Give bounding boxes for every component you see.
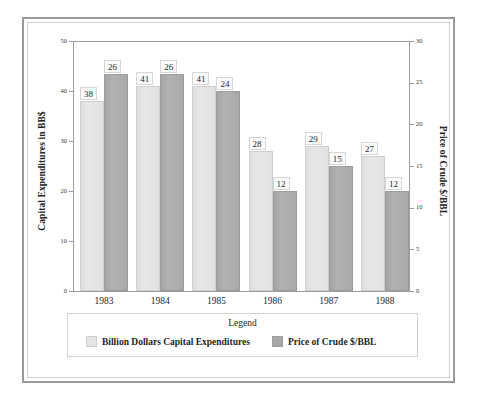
bar-value-label: 38 xyxy=(80,87,97,100)
bar-crude[interactable] xyxy=(273,191,297,291)
y-axis-right-tick xyxy=(410,124,414,125)
x-axis-label-1984: 1984 xyxy=(136,296,184,306)
bar-value-label: 24 xyxy=(216,77,233,90)
y-axis-right-tick xyxy=(410,166,414,167)
x-axis-label-1988: 1988 xyxy=(361,296,409,306)
bar-chart: Capital Expenditures in BB$ Price of Cru… xyxy=(0,0,477,410)
y-axis-right-tick-label: 10 xyxy=(416,204,444,211)
bar-value-label: 29 xyxy=(305,132,322,145)
bar-value-label: 41 xyxy=(136,72,153,85)
y-axis-right-tick-label: 5 xyxy=(416,246,444,253)
y-axis-right-tick-label: 25 xyxy=(416,79,444,86)
bar-value-label: 41 xyxy=(192,72,209,85)
light-gray-swatch xyxy=(86,336,97,347)
bar-capex[interactable] xyxy=(361,156,385,291)
chart-screenshot: Capital Expenditures in BB$ Price of Cru… xyxy=(0,0,477,410)
bar-value-label: 12 xyxy=(385,177,402,190)
x-axis-label-1983: 1983 xyxy=(80,296,128,306)
bar-value-label: 27 xyxy=(361,142,378,155)
bar-group: 4126 xyxy=(136,41,184,291)
y-axis-right-tick xyxy=(410,249,414,250)
y-axis-title-right: Price of Crude $/BBL xyxy=(438,96,448,246)
y-axis-right-tick xyxy=(410,291,414,292)
bar-crude[interactable] xyxy=(216,91,240,291)
bar-group: 2712 xyxy=(361,41,409,291)
x-axis-label-1986: 1986 xyxy=(249,296,297,306)
y-axis-left-tick-label: 0 xyxy=(39,288,67,295)
bar-value-label: 26 xyxy=(160,60,177,73)
bar-value-label: 28 xyxy=(249,137,266,150)
plot-area: 01020304050 051015202530 382641264124281… xyxy=(73,41,410,292)
x-axis-label-1985: 1985 xyxy=(192,296,240,306)
y-axis-right-tick-label: 20 xyxy=(416,121,444,128)
legend-title: Legend xyxy=(68,318,417,328)
y-axis-left-tick-label: 30 xyxy=(39,138,67,145)
bar-group: 4124 xyxy=(192,41,240,291)
bar-crude[interactable] xyxy=(160,74,184,291)
x-axis-label-1987: 1987 xyxy=(305,296,353,306)
y-axis-right-tick-label: 30 xyxy=(416,38,444,45)
y-axis-right-tick-label: 15 xyxy=(416,163,444,170)
legend: Legend Billion Dollars Capital Expenditu… xyxy=(67,313,418,357)
y-axis-title-left: Capital Expenditures in BB$ xyxy=(37,96,47,246)
bar-group: 3826 xyxy=(80,41,128,291)
y-axis-right-tick xyxy=(410,41,414,42)
bar-value-label: 26 xyxy=(104,60,121,73)
bar-capex[interactable] xyxy=(305,146,329,291)
bar-crude[interactable] xyxy=(329,166,353,291)
bar-crude[interactable] xyxy=(104,74,128,291)
dark-gray-swatch xyxy=(272,336,283,347)
legend-entry-label: Price of Crude $/BBL xyxy=(288,337,376,347)
y-axis-right-tick xyxy=(410,83,414,84)
y-axis-right-tick-label: 0 xyxy=(416,288,444,295)
bar-crude[interactable] xyxy=(385,191,409,291)
y-axis-right-tick xyxy=(410,208,414,209)
legend-entry[interactable]: Billion Dollars Capital Expenditures xyxy=(86,336,250,347)
legend-entry[interactable]: Price of Crude $/BBL xyxy=(272,336,376,347)
bar-capex[interactable] xyxy=(192,86,216,291)
y-axis-left-tick-label: 50 xyxy=(39,38,67,45)
bar-capex[interactable] xyxy=(80,101,104,291)
bar-group: 2812 xyxy=(249,41,297,291)
bar-value-label: 15 xyxy=(329,152,346,165)
legend-entries: Billion Dollars Capital ExpendituresPric… xyxy=(68,336,417,354)
y-axis-left-tick-label: 40 xyxy=(39,88,67,95)
y-axis-left-tick-label: 20 xyxy=(39,188,67,195)
bar-capex[interactable] xyxy=(249,151,273,291)
bars-layer: 382641264124281229152712 xyxy=(73,41,410,292)
bar-group: 2915 xyxy=(305,41,353,291)
bar-value-label: 12 xyxy=(273,177,290,190)
y-axis-left-tick-label: 10 xyxy=(39,238,67,245)
bar-capex[interactable] xyxy=(136,86,160,291)
legend-entry-label: Billion Dollars Capital Expenditures xyxy=(102,337,250,347)
